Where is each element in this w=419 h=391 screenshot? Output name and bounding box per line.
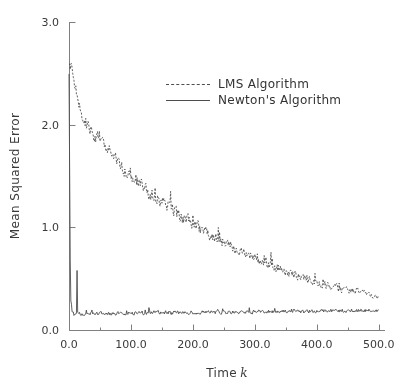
chart-figure: Mean Squared Error Timek 0.01.02.03.0 0.…	[0, 0, 419, 391]
x-tick-label: 500.0	[363, 338, 395, 351]
legend-label-newton: Newton's Algorithm	[218, 93, 341, 107]
legend-solid-line-icon	[166, 95, 210, 104]
x-tick-label: 0.0	[60, 338, 78, 351]
x-axis-label: Timek	[206, 366, 248, 380]
y-tick-label: 2.0	[0, 118, 59, 131]
legend-label-lms: LMS Algorithm	[218, 77, 309, 91]
y-tick-label: 3.0	[0, 16, 59, 29]
x-tick-label: 300.0	[239, 338, 271, 351]
legend-dashed-line-icon	[166, 79, 210, 88]
y-axis-label-container: Mean Squared Error	[0, 0, 30, 352]
y-tick-label: 1.0	[0, 221, 59, 234]
chart-legend: LMS Algorithm Newton's Algorithm	[166, 76, 341, 107]
legend-item-newton: Newton's Algorithm	[166, 92, 341, 107]
x-axis-label-symbol: k	[237, 366, 248, 380]
mean-squared-error-plot	[0, 0, 419, 391]
x-tick-label: 100.0	[115, 338, 147, 351]
legend-item-lms: LMS Algorithm	[166, 76, 341, 91]
x-axis-label-container: Timek	[69, 362, 385, 381]
x-axis-label-text: Time	[206, 366, 237, 380]
x-tick-label: 200.0	[177, 338, 209, 351]
y-tick-label: 0.0	[0, 324, 59, 337]
x-tick-label: 400.0	[301, 338, 333, 351]
